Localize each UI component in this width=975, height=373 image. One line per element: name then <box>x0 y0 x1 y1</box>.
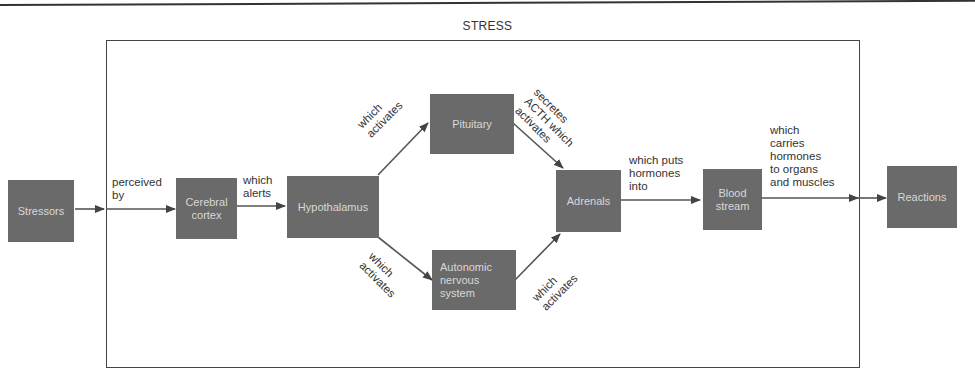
node-pituitary: Pituitary <box>430 94 514 154</box>
label-blood-reactions: which carries hormones to organs and mus… <box>770 124 835 189</box>
label-adr-blood: which puts hormones into <box>629 154 683 193</box>
label-which-alerts: which alerts <box>243 174 272 200</box>
node-reactions: Reactions <box>887 166 957 228</box>
node-stressors: Stressors <box>8 180 74 242</box>
node-blood-stream: Blood stream <box>703 169 762 230</box>
arrow-hypo-pit <box>378 123 428 175</box>
node-autonomic-nervous-system: Autonomic nervous system <box>432 250 516 310</box>
node-cerebral-cortex: Cerebral cortex <box>176 178 237 239</box>
node-hypothalamus: Hypothalamus <box>287 176 379 238</box>
node-adrenals: Adrenals <box>556 170 621 232</box>
label-perceived-by: perceived by <box>112 176 162 202</box>
